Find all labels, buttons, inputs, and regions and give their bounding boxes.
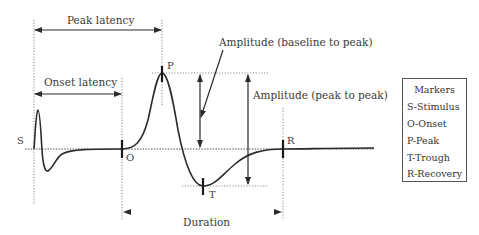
point-r-label: R (287, 136, 295, 146)
amp-peak-label: Amplitude (peak to peak) (253, 90, 388, 101)
amp-baseline-leader (201, 50, 223, 117)
onset-latency-label: Onset latency (44, 77, 117, 88)
legend-title: Markers (403, 84, 466, 95)
legend-item-onset: O-Onset (407, 118, 447, 129)
point-o-label: O (126, 153, 134, 163)
amp-baseline-label: Amplitude (baseline to peak) (219, 37, 372, 48)
legend-item-trough: T-Trough (407, 152, 450, 163)
legend-item-recovery: R-Recovery (407, 168, 462, 179)
markers-legend: Markers S-Stimulus O-Onset P-Peak T-Trou… (402, 78, 467, 182)
point-t-label: T (209, 190, 216, 200)
point-p-label: P (167, 61, 174, 71)
guide-lines (34, 20, 283, 220)
legend-item-stimulus: S-Stimulus (407, 101, 460, 112)
marker-ticks (122, 66, 283, 195)
waveform-diagram: Peak latency Onset latency Amplitude (ba… (0, 0, 479, 235)
legend-item-peak: P-Peak (407, 135, 439, 146)
point-s-label: S (17, 136, 24, 146)
peak-latency-label: Peak latency (67, 15, 134, 26)
duration-label: Duration (183, 217, 230, 228)
